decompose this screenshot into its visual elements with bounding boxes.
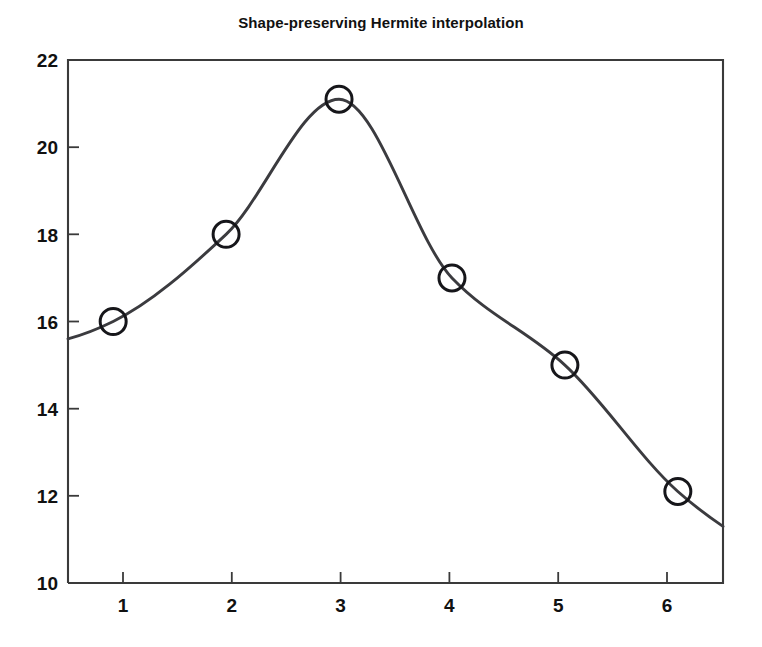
figure-canvas: Shape-preserving Hermite interpolation xyxy=(0,0,762,647)
y-tick-label-14: 14 xyxy=(37,399,59,420)
y-tick-label-22: 22 xyxy=(37,50,58,71)
x-axis-tick-labels: 1 2 3 4 5 6 xyxy=(118,595,673,616)
x-axis-ticks xyxy=(123,572,667,583)
x-tick-label-3: 3 xyxy=(335,595,346,616)
y-tick-label-16: 16 xyxy=(37,312,58,333)
interpolation-curve xyxy=(68,99,723,526)
data-point-markers xyxy=(100,86,691,504)
plot-area: 10 12 14 16 18 20 22 1 2 3 4 5 6 xyxy=(0,0,762,647)
y-tick-label-20: 20 xyxy=(37,137,58,158)
y-tick-label-18: 18 xyxy=(37,225,58,246)
x-tick-label-1: 1 xyxy=(118,595,129,616)
y-tick-label-10: 10 xyxy=(37,573,58,594)
y-tick-label-12: 12 xyxy=(37,486,58,507)
x-tick-label-4: 4 xyxy=(444,595,455,616)
x-tick-label-5: 5 xyxy=(553,595,564,616)
axes-frame xyxy=(68,60,723,583)
y-axis-tick-labels: 10 12 14 16 18 20 22 xyxy=(37,50,59,594)
x-tick-label-2: 2 xyxy=(227,595,238,616)
x-tick-label-6: 6 xyxy=(662,595,673,616)
axis-box xyxy=(68,60,723,583)
y-axis-ticks xyxy=(68,60,79,583)
